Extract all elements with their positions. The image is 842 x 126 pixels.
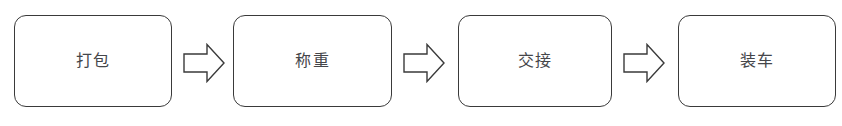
process-node-label: 装车 <box>740 53 775 69</box>
process-node-label: 交接 <box>518 53 553 69</box>
flow-arrow-2 <box>403 43 445 83</box>
right-block-arrow-icon <box>623 43 665 83</box>
process-node-weighing[interactable]: 称重 <box>233 15 392 107</box>
process-node-label: 称重 <box>295 53 330 69</box>
right-block-arrow-icon <box>183 43 225 83</box>
process-node-packing[interactable]: 打包 <box>14 15 172 107</box>
process-flow-diagram: 打包 称重 交接 装车 <box>0 0 842 126</box>
process-node-label: 打包 <box>76 53 111 69</box>
right-block-arrow-icon <box>403 43 445 83</box>
process-node-loading[interactable]: 装车 <box>678 15 836 107</box>
flow-arrow-3 <box>623 43 665 83</box>
flow-arrow-1 <box>183 43 225 83</box>
process-node-handover[interactable]: 交接 <box>458 15 612 107</box>
